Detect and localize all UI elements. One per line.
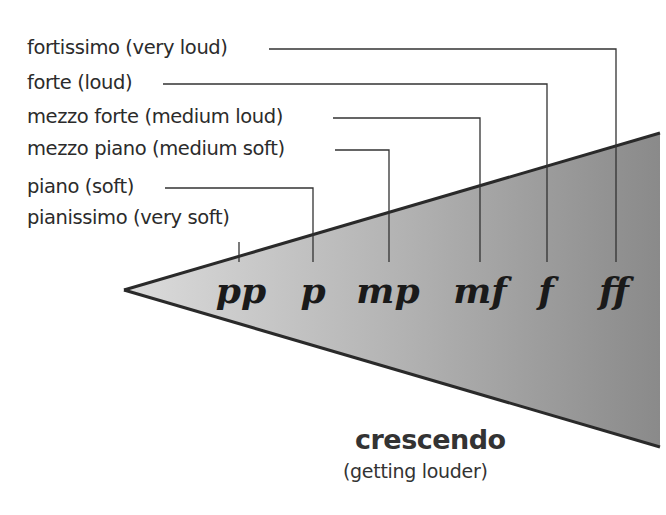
label-mezzo-piano: mezzo piano (medium soft) bbox=[27, 139, 285, 159]
label-fortissimo: fortissimo (very loud) bbox=[27, 38, 228, 58]
label-forte: forte (loud) bbox=[27, 73, 132, 93]
dynamic-pp: pp bbox=[216, 269, 266, 311]
dynamic-mf: mf bbox=[453, 269, 512, 311]
label-piano: piano (soft) bbox=[27, 177, 134, 197]
dynamic-mp: mp bbox=[356, 269, 419, 311]
label-pianissimo: pianissimo (very soft) bbox=[27, 208, 229, 228]
dynamic-p: p bbox=[300, 269, 325, 311]
crescendo-subtitle: (getting louder) bbox=[343, 460, 488, 482]
dynamic-ff: ff bbox=[596, 269, 634, 311]
crescendo-title: crescendo bbox=[355, 424, 506, 455]
label-mezzo-forte: mezzo forte (medium loud) bbox=[27, 107, 283, 127]
